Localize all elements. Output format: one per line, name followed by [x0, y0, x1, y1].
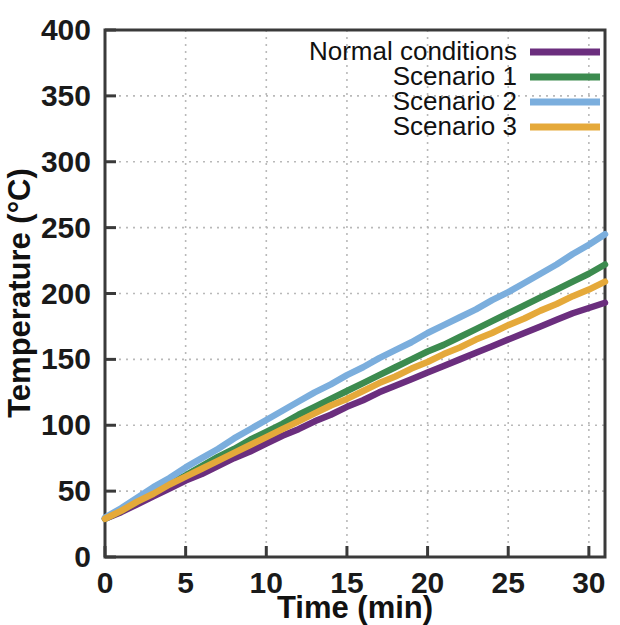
- x-axis-tickmarks: [105, 546, 589, 557]
- chart-figure: 050100150200250300350400 051015202530 Ti…: [0, 0, 620, 625]
- y-tick-label: 350: [41, 79, 91, 112]
- chart-legend: Normal conditionsScenario 1Scenario 2Sce…: [309, 36, 600, 141]
- y-axis-tick-labels: 050100150200250300350400: [41, 13, 91, 573]
- y-tick-label: 0: [74, 540, 91, 573]
- y-axis-title: Temperature (°C): [2, 168, 37, 418]
- y-tick-label: 300: [41, 145, 91, 178]
- horizontal-gridlines: [105, 96, 605, 491]
- y-axis-tickmarks: [105, 30, 116, 557]
- x-axis-title: Time (min): [277, 590, 433, 625]
- x-tick-label: 30: [572, 566, 605, 599]
- series-line: [105, 303, 605, 519]
- y-tick-label: 100: [41, 408, 91, 441]
- data-series-group: [105, 234, 605, 519]
- x-tick-label: 0: [97, 566, 114, 599]
- x-tick-label: 5: [177, 566, 194, 599]
- y-tick-label: 150: [41, 342, 91, 375]
- legend-label: Scenario 3: [393, 111, 517, 141]
- y-tick-label: 200: [41, 277, 91, 310]
- y-tick-label: 400: [41, 13, 91, 46]
- y-tick-label: 50: [58, 474, 91, 507]
- line-chart: 050100150200250300350400 051015202530 Ti…: [0, 0, 620, 625]
- y-tick-label: 250: [41, 211, 91, 244]
- x-tick-label: 25: [492, 566, 525, 599]
